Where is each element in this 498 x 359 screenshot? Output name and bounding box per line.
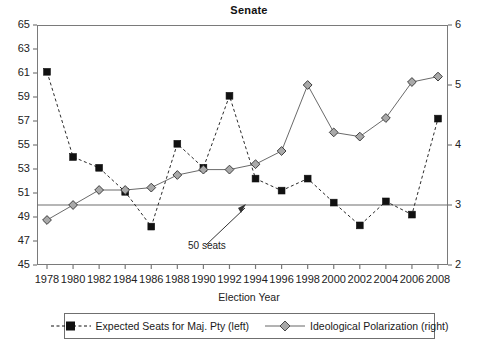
annotation-arrow — [206, 204, 246, 245]
x-axis-ticks — [47, 265, 438, 269]
data-point-2004[interactable] — [381, 114, 390, 123]
left-tick-63: 63 — [3, 42, 30, 54]
left-tick-59: 59 — [3, 90, 30, 102]
data-point-1992[interactable] — [226, 92, 233, 99]
data-point-1996[interactable] — [278, 187, 285, 194]
left-tick-61: 61 — [3, 66, 30, 78]
x-axis-title: Election Year — [0, 291, 498, 303]
left-tick-45: 45 — [3, 258, 30, 270]
left-tick-51: 51 — [3, 186, 30, 198]
data-point-2006[interactable] — [409, 211, 416, 218]
annotation-label-50-seats: 50 seats — [188, 240, 226, 251]
legend-marker-square-dashed — [51, 320, 91, 332]
data-point-1986[interactable] — [147, 183, 156, 192]
legend-item-expected-seats[interactable]: Expected Seats for Maj. Pty (left) — [51, 320, 249, 332]
left-tick-47: 47 — [3, 234, 30, 246]
left-tick-55: 55 — [3, 138, 30, 150]
data-point-1996[interactable] — [277, 147, 286, 156]
data-point-1980[interactable] — [69, 201, 78, 210]
left-axis-ticks — [33, 25, 37, 265]
data-point-1982[interactable] — [96, 164, 103, 171]
data-point-1982[interactable] — [95, 186, 104, 195]
legend-label-expected-seats: Expected Seats for Maj. Pty (left) — [96, 320, 249, 332]
data-point-2002[interactable] — [355, 132, 364, 141]
data-point-1998[interactable] — [304, 175, 311, 182]
data-point-1988[interactable] — [173, 171, 182, 180]
data-point-2002[interactable] — [356, 222, 363, 229]
data-point-2008[interactable] — [435, 115, 442, 122]
right-tick-6: 6 — [455, 18, 475, 30]
data-point-1988[interactable] — [174, 140, 181, 147]
data-point-1992[interactable] — [225, 165, 234, 174]
right-axis-ticks — [448, 25, 452, 265]
chart-legend: Expected Seats for Maj. Pty (left) Ideol… — [64, 313, 435, 339]
data-point-2008[interactable] — [434, 72, 443, 81]
data-point-2004[interactable] — [382, 198, 389, 205]
data-point-1994[interactable] — [252, 175, 259, 182]
data-point-1980[interactable] — [70, 154, 77, 161]
data-point-1978[interactable] — [44, 68, 51, 75]
legend-marker-diamond-solid — [265, 320, 305, 332]
data-point-1994[interactable] — [251, 160, 260, 169]
data-point-2000[interactable] — [329, 128, 338, 137]
x-tick-2008: 2008 — [421, 273, 455, 285]
data-point-1978[interactable] — [43, 216, 52, 225]
chart-svg — [0, 0, 498, 359]
left-tick-49: 49 — [3, 210, 30, 222]
chart-root: Senate 6563615957555351494745 65432 1978… — [0, 0, 498, 359]
right-tick-3: 3 — [455, 198, 475, 210]
data-point-2000[interactable] — [330, 199, 337, 206]
series-line-1 — [47, 77, 438, 220]
right-tick-4: 4 — [455, 138, 475, 150]
data-point-1986[interactable] — [148, 223, 155, 230]
data-point-1998[interactable] — [303, 81, 312, 90]
series-line-0 — [47, 72, 438, 227]
legend-label-ideological-polarization: Ideological Polarization (right) — [310, 320, 448, 332]
left-tick-65: 65 — [3, 18, 30, 30]
data-point-2006[interactable] — [408, 78, 417, 87]
right-tick-5: 5 — [455, 78, 475, 90]
right-tick-2: 2 — [455, 258, 475, 270]
legend-item-ideological-polarization[interactable]: Ideological Polarization (right) — [265, 320, 448, 332]
left-tick-53: 53 — [3, 162, 30, 174]
left-tick-57: 57 — [3, 114, 30, 126]
